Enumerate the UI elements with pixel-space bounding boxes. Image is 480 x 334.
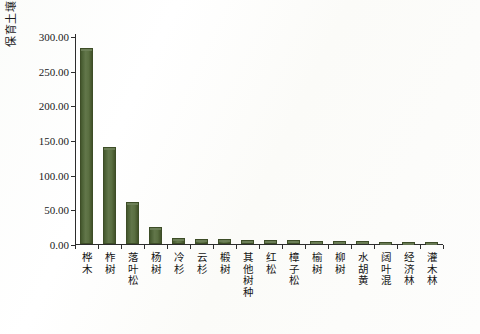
bar (218, 239, 231, 244)
x-tick-label-char: 杉 (171, 264, 187, 276)
y-tick-mark (71, 72, 75, 73)
x-tick-label-char: 树 (240, 275, 256, 287)
x-tick-label: 桦木 (79, 252, 95, 275)
y-tick-label: 50.00 (14, 204, 74, 216)
x-tick-label-char: 杨 (148, 252, 164, 264)
bar (126, 202, 139, 244)
x-tick-label-char: 黄 (355, 275, 371, 287)
x-tick-label-char: 冷 (171, 252, 187, 264)
bar (172, 238, 185, 244)
x-tick-label-char: 云 (194, 252, 210, 264)
x-tick-label-char: 松 (286, 275, 302, 287)
y-tick-mark (71, 141, 75, 142)
y-axis-tick-labels: 0.0050.00100.00150.00200.00250.00300.00 (14, 0, 74, 334)
x-tick-label: 椴树 (217, 252, 233, 275)
x-tick-label: 冷杉 (171, 252, 187, 275)
x-tick-mark (98, 245, 99, 249)
x-tick-label-char: 子 (286, 264, 302, 276)
x-tick-label: 云杉 (194, 252, 210, 275)
x-tick-label: 阔叶混 (378, 252, 394, 287)
x-tick-mark (75, 245, 76, 249)
x-tick-label-char: 树 (309, 264, 325, 276)
x-tick-label-char: 树 (332, 264, 348, 276)
y-tick-label: 200.00 (14, 100, 74, 112)
x-tick-label-char: 济 (401, 264, 417, 276)
x-tick-label: 经济林 (401, 252, 417, 287)
bar (149, 227, 162, 244)
x-tick-label-char: 木 (424, 264, 440, 276)
x-tick-label-char: 木 (79, 264, 95, 276)
x-tick-label-char: 叶 (125, 264, 141, 276)
bar-chart: 保育土壤（亿元/年） 0.0050.00100.00150.00200.0025… (0, 0, 480, 334)
bar (264, 240, 277, 244)
x-tick-mark (305, 245, 306, 249)
x-tick-label-char: 林 (401, 275, 417, 287)
x-tick-label-char: 杉 (194, 264, 210, 276)
x-tick-label-char: 林 (424, 275, 440, 287)
y-tick-mark (71, 210, 75, 211)
x-tick-label: 杨树 (148, 252, 164, 275)
plot-area (75, 37, 443, 245)
x-tick-label-char: 松 (263, 264, 279, 276)
y-axis-line (75, 34, 76, 245)
bar (195, 239, 208, 244)
x-tick-mark (190, 245, 191, 249)
x-tick-mark (420, 245, 421, 249)
x-tick-label-char: 经 (401, 252, 417, 264)
x-tick-mark (121, 245, 122, 249)
x-tick-label-char: 种 (240, 287, 256, 299)
y-tick-mark (71, 176, 75, 177)
x-tick-label-char: 柞 (102, 252, 118, 264)
x-tick-label-char: 其 (240, 252, 256, 264)
y-tick-label: 100.00 (14, 170, 74, 182)
x-tick-label-char: 红 (263, 252, 279, 264)
x-tick-mark (282, 245, 283, 249)
x-tick-label-char: 灌 (424, 252, 440, 264)
y-tick-mark (71, 37, 75, 38)
x-tick-label: 樟子松 (286, 252, 302, 287)
y-tick-label: 0.00 (14, 239, 74, 251)
x-tick-mark (144, 245, 145, 249)
x-tick-mark (167, 245, 168, 249)
bar (356, 241, 369, 244)
x-tick-label-char: 桦 (79, 252, 95, 264)
x-tick-mark (236, 245, 237, 249)
x-tick-label: 灌木林 (424, 252, 440, 287)
x-tick-label: 柞树 (102, 252, 118, 275)
x-tick-label-char: 阔 (378, 252, 394, 264)
x-tick-label-char: 落 (125, 252, 141, 264)
x-tick-mark (374, 245, 375, 249)
bar (402, 242, 415, 245)
x-tick-label-char: 榆 (309, 252, 325, 264)
x-tick-label-char: 他 (240, 264, 256, 276)
x-tick-label-char: 胡 (355, 264, 371, 276)
bar (425, 242, 438, 245)
x-tick-label: 榆树 (309, 252, 325, 275)
bar (310, 241, 323, 244)
bar (333, 241, 346, 244)
y-tick-label: 250.00 (14, 66, 74, 78)
bar (241, 240, 254, 245)
bar (379, 242, 392, 245)
x-tick-mark (213, 245, 214, 249)
x-tick-label-char: 樟 (286, 252, 302, 264)
bar (287, 240, 300, 244)
x-tick-label-char: 叶 (378, 264, 394, 276)
x-tick-label-char: 树 (148, 264, 164, 276)
x-tick-mark (259, 245, 260, 249)
x-tick-label-char: 椴 (217, 252, 233, 264)
x-tick-label-char: 柳 (332, 252, 348, 264)
x-tick-mark (328, 245, 329, 249)
x-tick-mark (351, 245, 352, 249)
x-tick-label-char: 树 (102, 264, 118, 276)
bar (80, 48, 93, 244)
x-tick-mark (443, 245, 444, 249)
x-tick-label: 落叶松 (125, 252, 141, 287)
y-tick-label: 300.00 (14, 31, 74, 43)
x-tick-label-char: 混 (378, 275, 394, 287)
x-tick-label-char: 松 (125, 275, 141, 287)
x-tick-label: 水胡黄 (355, 252, 371, 287)
x-tick-mark (397, 245, 398, 249)
y-tick-mark (71, 106, 75, 107)
x-tick-label: 其他树种 (240, 252, 256, 298)
